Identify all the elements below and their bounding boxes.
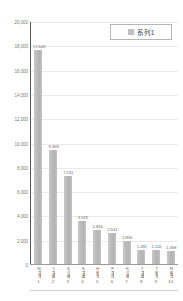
bar-value-label: 17,609 bbox=[33, 44, 46, 49]
x-axis-category-label: Y運輸 bbox=[51, 266, 56, 278]
y-axis-tick-label: 16,000 bbox=[0, 68, 28, 73]
x-axis-category-number: 4 bbox=[81, 279, 83, 285]
y-axis-tick-label: 2,000 bbox=[0, 238, 28, 243]
x-axis: N運送1Y運輸2S急便3S運輸4H物流5F運送6K急便7T運輸8T物流9N輸送1… bbox=[31, 266, 178, 301]
bar-series: 17,6099,3687,2313,5252,8162,5411,8561,18… bbox=[31, 22, 178, 264]
bar-slot: 2,541 bbox=[105, 22, 120, 264]
x-axis-category-label: S運輸 bbox=[80, 266, 85, 278]
x-axis-category-number: 9 bbox=[155, 279, 157, 285]
bar[interactable] bbox=[78, 221, 86, 264]
x-axis-category-number: 7 bbox=[125, 279, 127, 285]
x-axis-category: T運輸8 bbox=[134, 266, 149, 285]
x-axis-category: T物流9 bbox=[149, 266, 164, 285]
x-axis-category-number: 1 bbox=[37, 279, 39, 285]
bar-slot: 9,368 bbox=[46, 22, 61, 264]
x-axis-category-number: 6 bbox=[111, 279, 113, 285]
x-axis-line bbox=[30, 264, 178, 265]
y-axis: 20,00018,00016,00014,00012,00010,0008,00… bbox=[0, 22, 29, 265]
bar-slot: 1,116 bbox=[149, 22, 164, 264]
bar[interactable] bbox=[93, 230, 101, 264]
bar-slot: 17,609 bbox=[31, 22, 46, 264]
x-axis-category: N運送1 bbox=[31, 266, 46, 285]
x-axis-category-label: T物流 bbox=[154, 266, 159, 278]
plot-area: 17,6099,3687,2313,5252,8162,5411,8561,18… bbox=[30, 22, 178, 265]
x-axis-category: Y運輸2 bbox=[46, 266, 61, 285]
bar[interactable] bbox=[167, 251, 175, 264]
x-axis-divider bbox=[30, 290, 178, 291]
bar-slot: 2,816 bbox=[90, 22, 105, 264]
bar-slot: 7,231 bbox=[60, 22, 75, 264]
bar-slot: 1,058 bbox=[163, 22, 178, 264]
x-axis-category-number: 10 bbox=[168, 279, 173, 285]
bar[interactable] bbox=[64, 176, 72, 264]
bar-value-label: 1,856 bbox=[122, 235, 132, 240]
x-axis-category-number: 5 bbox=[96, 279, 98, 285]
y-axis-tick-label: 18,000 bbox=[0, 44, 28, 49]
y-axis-tick-label: 6,000 bbox=[0, 190, 28, 195]
bar-value-label: 7,231 bbox=[63, 170, 73, 175]
x-axis-category-number: 8 bbox=[140, 279, 142, 285]
x-axis-category-label: S急便 bbox=[65, 266, 70, 278]
bar[interactable] bbox=[137, 250, 145, 264]
y-axis-tick-label: 12,000 bbox=[0, 117, 28, 122]
bar[interactable] bbox=[152, 250, 160, 264]
x-axis-category: S急便3 bbox=[60, 266, 75, 285]
bar-slot: 3,525 bbox=[75, 22, 90, 264]
x-axis-category: K急便7 bbox=[119, 266, 134, 285]
y-axis-tick-label: 10,000 bbox=[0, 141, 28, 146]
x-axis-category-label: T運輸 bbox=[139, 266, 144, 278]
bar-value-label: 3,525 bbox=[78, 215, 88, 220]
x-axis-category-number: 3 bbox=[67, 279, 69, 285]
bar-value-label: 1,116 bbox=[152, 244, 162, 249]
y-axis-tick-label: 8,000 bbox=[0, 165, 28, 170]
bar-value-label: 1,181 bbox=[137, 244, 147, 249]
bar[interactable] bbox=[108, 233, 116, 264]
bar-slot: 1,181 bbox=[134, 22, 149, 264]
x-axis-category: S運輸4 bbox=[75, 266, 90, 285]
y-axis-tick-label: 0 bbox=[0, 263, 28, 268]
x-axis-category: F運送6 bbox=[105, 266, 120, 285]
x-axis-category: N輸送10 bbox=[163, 266, 178, 285]
bar-value-label: 2,816 bbox=[93, 224, 103, 229]
y-axis-tick-label: 20,000 bbox=[0, 20, 28, 25]
x-axis-category-label: K急便 bbox=[124, 266, 129, 278]
x-axis-category: H物流5 bbox=[90, 266, 105, 285]
x-axis-category-label: N輸送 bbox=[168, 266, 173, 278]
bar-value-label: 9,368 bbox=[48, 144, 58, 149]
legend[interactable]: 系列1 bbox=[110, 24, 172, 40]
y-axis-tick-label: 14,000 bbox=[0, 92, 28, 97]
legend-label: 系列1 bbox=[137, 27, 155, 37]
x-axis-category-label: H物流 bbox=[95, 266, 100, 278]
bar[interactable] bbox=[123, 241, 131, 264]
x-axis-category-number: 2 bbox=[52, 279, 54, 285]
bar-value-label: 2,541 bbox=[107, 227, 117, 232]
x-axis-category-label: N運送 bbox=[36, 266, 41, 278]
x-axis-category-label: F運送 bbox=[110, 266, 115, 278]
legend-swatch-icon bbox=[128, 29, 134, 35]
bar-chart: 20,00018,00016,00014,00012,00010,0008,00… bbox=[0, 0, 183, 301]
bar-slot: 1,856 bbox=[119, 22, 134, 264]
bar-value-label: 1,058 bbox=[166, 245, 176, 250]
bar[interactable] bbox=[34, 50, 42, 264]
bar[interactable] bbox=[49, 150, 57, 264]
y-axis-tick-label: 4,000 bbox=[0, 214, 28, 219]
